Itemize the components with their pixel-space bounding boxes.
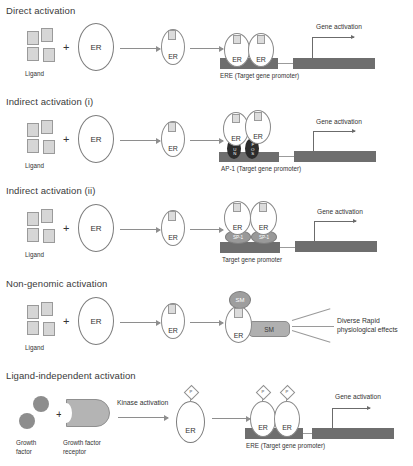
ligand-label: Ligand <box>25 162 44 170</box>
gene-activation-arrow-arm <box>332 408 370 409</box>
ligand-square <box>43 322 55 336</box>
phosphate-label: P <box>284 389 290 394</box>
arrow-binding <box>120 322 160 323</box>
panel-title-ligand-independent: Ligand-independent activation <box>6 370 136 381</box>
receptor-binding-notch <box>61 403 72 423</box>
ligand-square-dimer <box>233 35 241 44</box>
gene-bar <box>294 151 376 162</box>
ligand-square-dimer <box>232 114 240 123</box>
promoter-bar <box>220 242 280 253</box>
promoter-caption: AP-1 (Target gene promoter) <box>221 165 301 173</box>
arrow-translocation <box>190 48 223 49</box>
phosphate-label: P <box>188 389 194 394</box>
receptor-label-line2: receptor <box>63 448 86 456</box>
ligand-square <box>43 48 55 62</box>
arrow-binding <box>120 140 160 141</box>
ligand-square <box>27 212 39 226</box>
ligand-square <box>41 302 53 316</box>
growth-factor-label-line1: Growth <box>16 439 36 447</box>
arrow-translocation <box>190 229 223 230</box>
gene-activation-label: Gene activation <box>316 23 362 30</box>
gene-activation-label: Gene activation <box>316 118 362 125</box>
er-receptor-free: ER <box>78 23 114 71</box>
panel-title-direct: Direct activation <box>6 5 75 16</box>
panel-title-indirect-ii: Indirect activation (ii) <box>6 185 96 196</box>
ligand-label: Ligand <box>25 344 44 352</box>
physiological-effects-line2: physiological effects <box>337 326 398 334</box>
panel-indirect-activation-i: Indirect activation (i) Ligand + ER ER E… <box>0 92 413 182</box>
ligand-square <box>43 229 55 243</box>
er-dimer-right: ER <box>274 401 300 437</box>
er-phosphorylated: ER <box>176 401 205 443</box>
panel-title-indirect-i: Indirect activation (i) <box>6 96 93 107</box>
effect-line-up <box>292 308 331 321</box>
promoter-gene-connector <box>280 247 296 248</box>
ligand-square <box>27 47 39 61</box>
plus-sign: + <box>63 133 69 145</box>
kinase-activation-label: Kinase activation <box>117 399 168 407</box>
physiological-effects-line1: Diverse Rapid <box>337 317 380 325</box>
arrow-binding <box>120 48 160 49</box>
ligand-square <box>27 31 39 45</box>
arrow-binding <box>120 229 160 230</box>
arrow-translocation <box>190 140 223 141</box>
ligand-label: Ligand <box>25 70 44 78</box>
plus-sign: + <box>63 222 69 234</box>
receptor-label-line1: Growth factor <box>63 439 101 447</box>
growth-factor-dot <box>33 396 49 412</box>
ligand-square <box>41 209 53 223</box>
ligand-square-dimer <box>257 35 265 44</box>
gene-activation-label: Gene activation <box>335 393 381 400</box>
gene-activation-arrow-stem <box>314 221 315 241</box>
signal-molecule-box: SM <box>248 321 290 337</box>
ligand-square-dimer <box>233 203 241 212</box>
ligand-square <box>27 305 39 319</box>
panel-indirect-activation-ii: Indirect activation (ii) Ligand + ER ER … <box>0 181 413 269</box>
plus-sign: + <box>63 315 69 327</box>
promoter-gene-connector <box>279 156 295 157</box>
gene-activation-arrow-stem <box>332 408 333 428</box>
ligand-square-bound <box>168 304 176 314</box>
panel-direct-activation: Direct activation Ligand + ER ER ER ER E… <box>0 0 413 95</box>
ligand-square-dimer <box>259 203 267 212</box>
arrow-translocation <box>212 418 250 419</box>
ligand-square-bound <box>168 30 176 40</box>
growth-factor-receptor <box>66 399 110 427</box>
ligand-square-bound <box>168 122 176 132</box>
er-receptor-free: ER <box>78 115 114 163</box>
er-dimer-left: ER <box>250 401 276 437</box>
cofactor-fos-letter: FOS <box>250 142 255 156</box>
growth-factor-dot <box>19 413 35 429</box>
effect-line-down <box>292 330 331 343</box>
promoter-caption: Target gene promoter <box>222 256 282 264</box>
ligand-square-dimer <box>254 112 262 121</box>
er-receptor-free: ER <box>78 297 114 345</box>
gene-bar <box>295 241 377 252</box>
er-receptor-free: ER <box>78 204 114 252</box>
ligand-square <box>41 120 53 134</box>
gene-activation-arrow-arm <box>313 131 355 132</box>
gene-activation-arrow-arm <box>312 37 354 38</box>
ligand-square-bound <box>234 308 243 318</box>
ligand-square <box>27 228 39 242</box>
gene-activation-label: Gene activation <box>317 208 363 215</box>
ligand-square-bound <box>168 211 176 221</box>
panel-title-non-genomic: Non-genomic activation <box>6 278 107 289</box>
ligand-square <box>27 321 39 335</box>
gene-activation-arrow-stem <box>313 131 314 151</box>
arrow-kinase-activation <box>118 417 168 418</box>
ligand-square <box>27 139 39 153</box>
ligand-square <box>41 28 53 42</box>
promoter-caption: ERE (Target gene promoter) <box>246 442 325 450</box>
gene-bar <box>312 428 394 439</box>
panel-non-genomic-activation: Non-genomic activation Ligand + ER ER SM… <box>0 268 413 354</box>
effect-line-mid <box>292 326 334 327</box>
gene-activation-arrow-stem <box>312 37 313 58</box>
promoter-gene-connector <box>278 63 294 64</box>
gene-bar <box>293 58 375 69</box>
promoter-caption: ERE (Target gene promoter) <box>220 72 299 80</box>
growth-factor-label-line2: factor <box>16 448 32 456</box>
signal-molecule-oval: SM <box>229 291 251 309</box>
plus-sign: + <box>63 41 69 53</box>
panel-ligand-independent-activation: Ligand-independent activation Growth fac… <box>0 355 413 466</box>
